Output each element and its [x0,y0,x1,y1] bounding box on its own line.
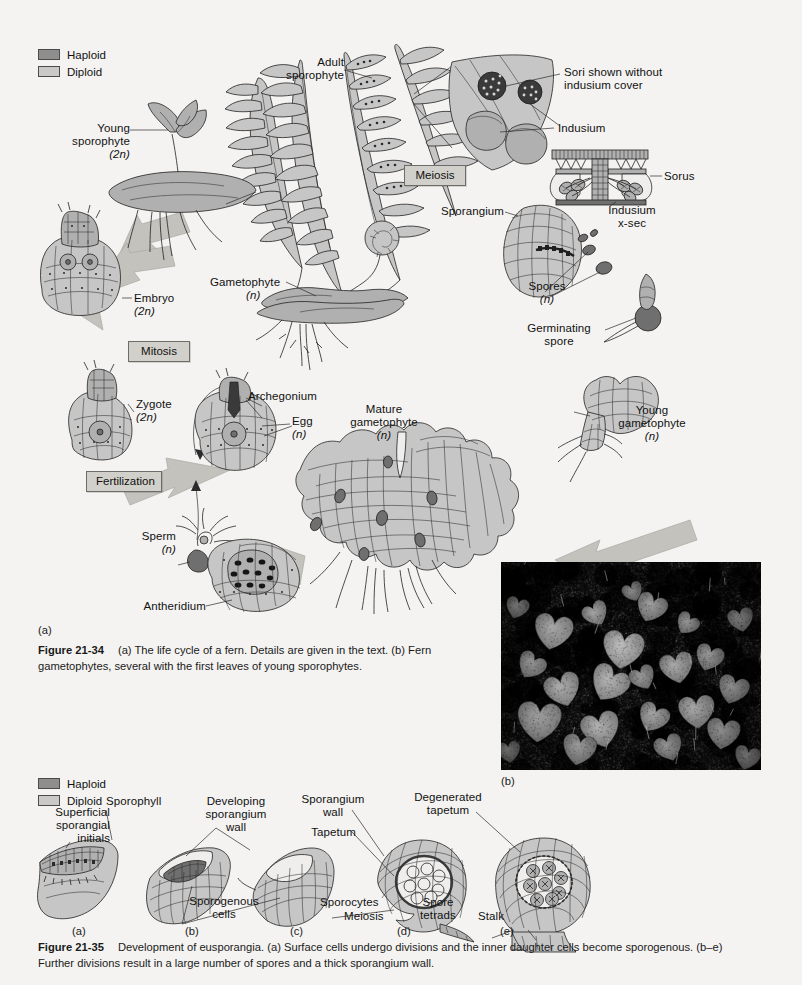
label-indusium: Indusium [558,122,605,135]
label-gametophyte-ploidy: (n) [246,289,260,302]
process-box-meiosis: Meiosis [404,165,466,186]
label-indusium-xsec: Indusium x-sec [592,204,672,230]
label-superficial-sporangial-initials: Superficial sporangial initials [28,806,110,846]
label-sporocytes: Sporocytes [320,896,379,909]
panel-letter-a-2135: (a) [72,925,86,937]
panel-letter-b-2135: (b) [185,925,199,937]
haploid-swatch-2135 [38,778,60,789]
zygote-in-archegonium [69,360,132,460]
caption-21-35: Figure 21-35Development of eusporangia. … [38,940,758,971]
embryo-cell-mass [40,202,120,316]
rhizome [256,288,408,370]
panel-letter-c-2135: (c) [290,925,303,937]
label-spores-ploidy: (n) [512,293,582,306]
label-sporangium: Sporangium [418,205,504,218]
haploid-swatch [38,49,60,60]
label-sporophyll: Sporophyll [106,795,161,808]
label-sori-without-indusium: Sori shown without indusium cover [564,66,662,92]
label-antheridium: Antheridium [110,600,206,613]
label-young-sporophyte-ploidy: (2n) [30,148,130,161]
germinating-spore [604,274,661,342]
label-meiosis-2135: Meiosis [344,910,384,923]
label-developing-sporangium-wall: Developing sporangium wall [192,795,280,835]
panel-letter-a-2134: (a) [38,624,52,636]
label-sporangium-wall: Sporangium wall [294,793,372,819]
label-embryo-ploidy: (2n) [134,305,155,318]
panel-letter-e-2135: (e) [500,925,514,937]
mature-gametophyte [296,423,519,614]
indusium-cross-section [550,150,652,205]
label-gametophyte: Gametophyte [210,276,280,289]
label-degenerated-tapetum: Degenerated tapetum [404,791,492,817]
fern-gametophyte-photograph [501,562,761,770]
panel-letter-b-2134: (b) [501,775,515,787]
textbook-page: Haploid Diploid Young sporophyte (2n) Ad… [0,0,802,985]
caption-21-34-number: Figure 21-34 [38,644,104,656]
label-germinating-spore: Germinating spore [512,322,606,348]
archegonium-with-egg [195,368,292,470]
haploid-label-2135: Haploid [67,778,106,790]
fiddlehead [364,221,399,282]
stage-a-sporophyll [37,840,118,919]
haploid-label: Haploid [67,49,106,61]
label-spores: Spores [512,280,582,293]
caption-21-35-text: Development of eusporangia. (a) Surface … [38,941,722,969]
process-box-fertilization: Fertilization [86,471,162,492]
label-zygote-ploidy: (2n) [136,411,157,424]
label-sperm: Sperm [96,530,176,543]
sorus-exposed [478,72,506,100]
label-archegonium: Archegonium [248,390,317,403]
label-sorus: Sorus [664,170,695,183]
label-mature-gametophyte: Mature gametophyte [330,403,438,429]
label-tapetum: Tapetum [288,826,356,839]
legend-row-diploid: Diploid [38,64,106,79]
label-sperm-ploidy: (n) [96,543,176,556]
diploid-label: Diploid [67,66,102,78]
panel-letter-d-2135: (d) [397,925,411,937]
label-young-gametophyte: Young gametophyte [600,404,704,430]
label-young-gametophyte-ploidy: (n) [600,430,704,443]
label-egg-ploidy: (n) [292,428,306,441]
process-box-mitosis: Mitosis [128,341,190,362]
label-zygote: Zygote [136,398,172,411]
sorus-exposed-2 [518,80,542,104]
label-embryo: Embryo [134,292,174,305]
label-egg: Egg [292,415,313,428]
caption-21-35-number: Figure 21-35 [38,941,104,953]
label-sporogenous-cells: Sporogenous cells [180,895,268,921]
diploid-swatch [38,66,60,77]
caption-21-34: Figure 21-34(a) The life cycle of a fern… [38,643,450,674]
fertilization-up-arrow [191,480,201,540]
label-stalk: Stalk [478,910,504,923]
label-adult-sporophyte: Adult sporophyte [238,56,344,82]
label-mature-gametophyte-ploidy: (n) [330,429,438,442]
legend-21-34: Haploid Diploid [38,47,106,81]
legend-row-haploid: Haploid [38,47,106,62]
label-spore-tetrads: Spore tetrads [412,896,464,922]
legend-row-haploid-2135: Haploid [38,776,106,791]
label-young-sporophyte: Young sporophyte [30,122,130,148]
